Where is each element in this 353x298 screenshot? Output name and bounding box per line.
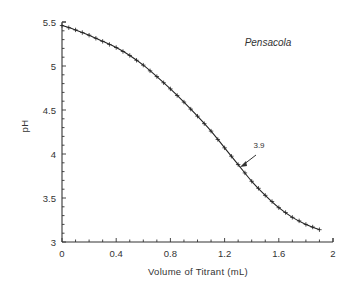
plus-marker-icon bbox=[80, 30, 84, 34]
plus-marker-icon bbox=[73, 28, 77, 32]
x-tick-label: 1.2 bbox=[218, 248, 231, 259]
x-tick-label: 0 bbox=[59, 248, 64, 259]
plus-marker-icon bbox=[87, 33, 91, 37]
y-tick-label: 5 bbox=[51, 61, 56, 72]
titration-curve bbox=[62, 26, 319, 230]
chart-title: Pensacola bbox=[245, 37, 292, 48]
titration-chart: 00.40.81.21.6233.544.555.5 Pensacola Vol… bbox=[0, 0, 353, 298]
plus-marker-icon bbox=[304, 222, 308, 226]
annotation-label: 3.9 bbox=[253, 141, 265, 150]
y-tick-label: 4.5 bbox=[43, 105, 56, 116]
plus-marker-icon bbox=[100, 39, 104, 43]
plus-marker-icon bbox=[60, 23, 64, 27]
tick-labels: 00.40.81.21.6233.544.555.5 bbox=[43, 17, 336, 260]
plus-marker-icon bbox=[317, 227, 321, 231]
axes bbox=[62, 22, 333, 242]
x-tick-label: 2 bbox=[330, 248, 335, 259]
x-axis-label: Volume of Titrant (mL) bbox=[148, 266, 248, 277]
y-axis-label: pH bbox=[19, 120, 30, 133]
annotation-inflection: 3.9 bbox=[240, 141, 265, 167]
data-point-markers bbox=[60, 23, 322, 232]
y-tick-label: 5.5 bbox=[43, 17, 56, 28]
y-tick-label: 3.5 bbox=[43, 193, 56, 204]
x-tick-label: 0.4 bbox=[110, 248, 123, 259]
plus-marker-icon bbox=[310, 225, 314, 229]
plus-marker-icon bbox=[94, 36, 98, 40]
plus-marker-icon bbox=[114, 45, 118, 49]
y-tick-label: 4 bbox=[51, 149, 56, 160]
ticks bbox=[62, 22, 333, 242]
x-tick-label: 0.8 bbox=[164, 248, 177, 259]
x-tick-label: 1.6 bbox=[272, 248, 285, 259]
y-tick-label: 3 bbox=[51, 237, 56, 248]
plus-marker-icon bbox=[107, 42, 111, 46]
arrow-head-icon bbox=[240, 161, 247, 167]
plus-marker-icon bbox=[67, 26, 71, 30]
